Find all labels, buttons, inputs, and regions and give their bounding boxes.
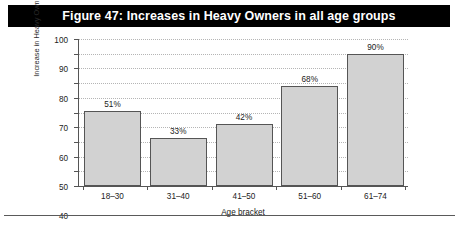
figure-bottom-rule [4,215,455,216]
bar-group: 68% [280,39,339,186]
chart-area: Increase in Heavy Owners from 2000–2006 … [0,29,459,204]
bar-value-label: 33% [170,127,186,136]
x-axis-tick-label: 51–60 [280,192,339,201]
bar-value-label: 68% [302,75,318,84]
plot-area: 0102030405060708090100 51%33%42%68%90% [78,39,408,186]
figure-title: Figure 47: Increases in Heavy Owners in … [62,9,395,23]
y-axis-tick-label: 90 [59,65,68,74]
y-axis-tick-label: 100 [54,36,68,45]
bar-group: 33% [149,39,208,186]
x-axis-tick-label: 18–30 [83,192,142,201]
bar-value-label: 90% [367,43,383,52]
bar-group: 51% [83,39,142,186]
x-axis-line [78,186,408,187]
bar-group: 90% [346,39,405,186]
x-axis-tick [212,186,213,190]
x-axis-tick [83,186,84,190]
bar[interactable] [347,54,404,186]
figure-container: Figure 47: Increases in Heavy Owners in … [0,0,459,227]
bar[interactable] [281,86,338,186]
y-axis-tick-label: 40 [59,212,68,221]
x-axis-tick-labels: 18–3031–4041–5051–6061–74 [78,192,408,201]
y-axis-tick-label: 70 [59,124,68,133]
bar[interactable] [150,138,207,187]
y-axis-title: Increase in Heavy Owners from 2000–2006 [22,0,50,75]
x-axis-tick-label: 41–50 [215,192,274,201]
bar[interactable] [84,111,141,186]
x-axis-tick-label: 61–74 [346,192,405,201]
y-axis-title-line1: Increase in Heavy Owners [32,0,41,77]
x-axis-tick [147,186,148,190]
x-axis-tick [276,186,277,190]
y-axis-tick: 0 [74,186,78,187]
x-axis-tick [341,186,342,190]
bar-group: 42% [215,39,274,186]
bar[interactable] [216,124,273,186]
bar-value-label: 51% [104,100,120,109]
y-axis-tick-label: 50 [59,183,68,192]
x-axis-tick-label: 31–40 [149,192,208,201]
x-axis-tick [405,186,406,190]
y-axis-tick-label: 80 [59,94,68,103]
bar-value-label: 42% [236,113,252,122]
bars-layer: 51%33%42%68%90% [78,39,408,186]
figure-title-band: Figure 47: Increases in Heavy Owners in … [8,5,450,27]
y-axis-tick-label: 60 [59,153,68,162]
